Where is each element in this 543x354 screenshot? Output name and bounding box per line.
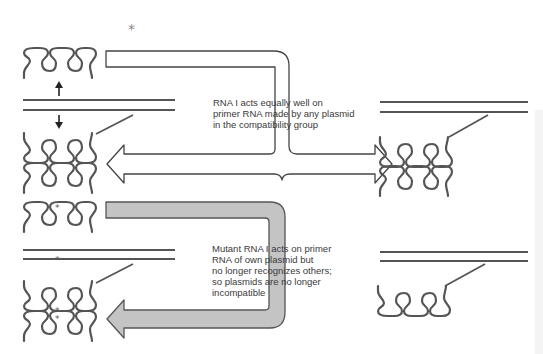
rna-one-bound-right xyxy=(380,166,452,196)
mutation-star-marker: * xyxy=(55,203,60,213)
caption-line: primer RNA made by any plasmid xyxy=(213,108,355,119)
caption-line: RNA of own plasmid but xyxy=(212,254,332,265)
mutation-star-marker: * xyxy=(55,314,60,324)
mutant-primer-rna-tail xyxy=(96,264,133,283)
rna-one-hairpin-left xyxy=(24,48,96,78)
arrow-down-icon xyxy=(55,115,63,129)
primer-rna-hairpin-left xyxy=(24,133,96,163)
mutant-rna-one-bound xyxy=(24,311,96,341)
arrow-up-icon xyxy=(55,81,63,96)
caption-line: in the compatibility group xyxy=(213,119,355,130)
right-primer-rna-hairpin xyxy=(378,286,450,316)
caption-mutant: Mutant RNA I acts on primer RNA of own p… xyxy=(212,243,332,298)
rna-one-bound-left xyxy=(24,163,96,193)
diagram-canvas: * * * xyxy=(0,0,543,354)
primer-rna-tail-left xyxy=(96,115,133,134)
caption-line: RNA I acts equally well on xyxy=(213,97,355,108)
right-primer-rna-tail xyxy=(445,264,485,286)
caption-line: incompatible xyxy=(212,287,332,298)
mutant-rna-one-hairpin xyxy=(24,202,96,232)
mutation-star-marker: * xyxy=(55,255,60,265)
mutation-star-marker: * xyxy=(128,21,135,37)
mutant-primer-rna-hairpin xyxy=(24,281,96,311)
caption-line: Mutant RNA I acts on primer xyxy=(212,243,332,254)
caption-wild-type: RNA I acts equally well on primer RNA ma… xyxy=(213,97,355,130)
caption-line: so plasmids are no longer xyxy=(212,276,332,287)
caption-line: no longer recognizes others; xyxy=(212,265,332,276)
primer-rna-tail-right xyxy=(449,115,488,137)
